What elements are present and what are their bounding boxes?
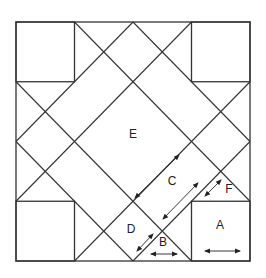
piece-label-f: F bbox=[225, 182, 232, 196]
piece-label-b: B bbox=[159, 235, 167, 249]
grain-arrow-f bbox=[205, 180, 221, 196]
corner-square-bottom-left bbox=[16, 201, 75, 261]
diagonal-line bbox=[75, 22, 251, 201]
piece-label-d: D bbox=[127, 222, 136, 236]
quilt-block-diagram: A B C D E F bbox=[0, 0, 266, 278]
diagonal-line bbox=[16, 22, 192, 201]
corner-square-top-left bbox=[16, 22, 75, 82]
diagonal-line bbox=[16, 82, 192, 261]
corner-square-top-right bbox=[192, 22, 251, 82]
piece-label-e: E bbox=[129, 127, 137, 141]
piece-label-c: C bbox=[168, 174, 177, 188]
piece-label-a: A bbox=[216, 218, 224, 232]
